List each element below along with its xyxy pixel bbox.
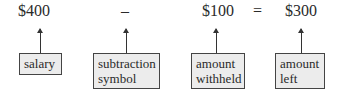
subtraction-label-line1: subtraction [98,56,155,71]
subtraction-label-line2: symbol [98,71,155,86]
salary-label: salary [24,56,55,71]
left-label-box: amount left [275,53,325,89]
subtraction-label-box: subtraction symbol [93,53,160,89]
equals-sign: = [253,2,262,20]
arrow-up-icon [40,29,41,53]
withheld-label-line2: withheld [196,71,240,86]
withheld-value: $100 [202,2,234,20]
minus-sign: – [121,2,129,20]
left-label-line2: left [280,71,320,86]
left-value: $300 [285,2,317,20]
salary-label-box: salary [19,53,62,75]
left-label-line1: amount [280,56,320,71]
arrow-up-icon [216,29,217,53]
salary-value: $400 [18,2,50,20]
arrow-up-icon [126,29,127,53]
arrow-up-icon [301,29,302,53]
withheld-label-line1: amount [196,56,240,71]
withheld-label-box: amount withheld [191,53,245,89]
